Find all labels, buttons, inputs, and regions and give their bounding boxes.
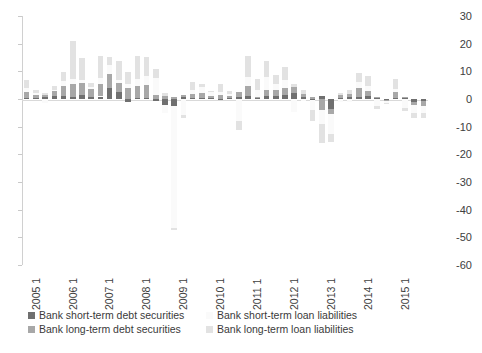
bar-segment-stll (227, 94, 233, 96)
bar-segment-stll (33, 93, 39, 95)
y-axis-tick (18, 210, 22, 211)
x-axis-tick-label: 2008 1 (141, 278, 152, 310)
bar-segment-ltll (374, 106, 380, 109)
bar-column (135, 16, 141, 265)
legend-item-ltll[interactable]: Bank long-term loan liabilities (206, 324, 354, 335)
bar-segment-ltds (365, 91, 371, 97)
bar-segment-stll (79, 80, 85, 83)
bar-segment-stll (236, 99, 242, 121)
bar-column (384, 16, 390, 265)
legend-item-ltds[interactable]: Bank long-term debt securities (28, 324, 181, 335)
legend-swatch-icon (206, 312, 213, 319)
bar-segment-stll (70, 79, 76, 85)
bar-segment-ltds (393, 92, 399, 99)
bar-column (70, 16, 76, 265)
bar-segment-stds (33, 98, 39, 99)
bar-column (328, 16, 334, 265)
bar-segment-ltds (79, 83, 85, 95)
bar-segment-ltll (218, 84, 224, 93)
legend-swatch-icon (28, 326, 35, 333)
bar-segment-stds (153, 99, 159, 101)
bar-segment-ltds (171, 97, 177, 99)
bar-segment-stds (61, 96, 67, 99)
bar-segment-stll (264, 77, 270, 90)
bar-segment-stll (255, 90, 261, 97)
bar-column (61, 16, 67, 265)
bar-column (88, 16, 94, 265)
legend-item-stll[interactable]: Bank short-term loan liabilities (206, 310, 357, 321)
bar-segment-stll (393, 89, 399, 92)
bar-column (98, 16, 104, 265)
bar-segment-stll (245, 77, 251, 85)
bar-segment-stds (144, 98, 150, 99)
legend-swatch-icon (206, 326, 213, 333)
bar-segment-ltll (42, 93, 48, 95)
y-axis-tick-label: 0 (436, 94, 472, 105)
x-axis-tick-label: 2011 1 (252, 279, 263, 310)
bar-segment-ltll (70, 41, 76, 79)
bar-segment-stds (227, 98, 233, 99)
bar-column (79, 16, 85, 265)
legend-item-stds[interactable]: Bank short-term debt securities (28, 310, 184, 321)
bar-segment-ltds (61, 86, 67, 97)
x-axis-tick-label: 2012 1 (289, 278, 300, 310)
bar-segment-ltll (107, 57, 113, 65)
x-axis-tick-label: 2007 1 (104, 278, 115, 310)
bar-segment-stll (402, 99, 408, 108)
x-axis-tick-label: 2010 1 (215, 278, 226, 310)
bar-segment-ltds (319, 99, 325, 110)
bar-segment-ltll (171, 228, 177, 231)
bar-segment-stll (125, 84, 131, 89)
x-axis-tick-label: 2005 1 (31, 278, 42, 310)
bar-segment-ltds (347, 94, 353, 97)
bar-segment-ltll (310, 110, 316, 121)
bar-column (227, 16, 233, 265)
bar-segment-ltds (52, 91, 58, 95)
bar-segment-stll (153, 78, 159, 95)
bar-segment-ltds (208, 96, 214, 99)
bar-segment-ltll (236, 121, 242, 130)
legend-label: Bank long-term loan liabilities (217, 324, 354, 335)
bar-segment-ltll (264, 61, 270, 78)
bar-segment-ltll (421, 113, 427, 118)
bar-segment-stds (88, 97, 94, 99)
bar-segment-ltll (208, 91, 214, 93)
y-axis-tick (18, 154, 22, 155)
bar-segment-stll (421, 106, 427, 113)
bar-column (273, 16, 279, 265)
bar-segment-stll (88, 87, 94, 89)
bar-segment-ltll (411, 113, 417, 117)
bar-segment-ltll (135, 56, 141, 78)
bar-segment-ltds (107, 74, 113, 88)
bar-segment-ltds (125, 88, 131, 99)
bar-segment-ltds (338, 95, 344, 97)
bar-segment-stll (282, 80, 288, 88)
bar-column (236, 16, 242, 265)
bar-segment-ltll (88, 83, 94, 87)
bar-segment-stds (264, 96, 270, 99)
bar-column (393, 16, 399, 265)
chart-legend: Bank short-term debt securitiesBank long… (28, 310, 448, 344)
bar-segment-ltll (319, 124, 325, 143)
bar-segment-ltll (33, 90, 39, 93)
bar-segment-ltll (291, 84, 297, 87)
legend-label: Bank short-term loan liabilities (217, 310, 357, 321)
y-axis-tick-label: -60 (436, 260, 472, 271)
bar-segment-ltds (282, 88, 288, 96)
bar-segment-ltll (79, 58, 85, 80)
bar-segment-stds (24, 98, 30, 99)
bar-segment-stds (116, 92, 122, 99)
bar-segment-stll (328, 114, 334, 133)
bar-segment-stll (24, 88, 30, 91)
bar-segment-ltds (88, 89, 94, 97)
bar-segment-stll (356, 82, 362, 88)
bar-segment-ltds (227, 96, 233, 98)
bar-column (181, 16, 187, 265)
bar-segment-stll (42, 99, 48, 103)
y-axis-tick (18, 44, 22, 45)
bar-segment-ltds (236, 92, 242, 97)
y-axis-tick (18, 71, 22, 72)
y-axis-tick (18, 16, 22, 17)
bar-column (310, 16, 316, 265)
stacked-bar-chart: 3020100-10-20-30-40-50-60 2005 12006 120… (0, 0, 482, 353)
